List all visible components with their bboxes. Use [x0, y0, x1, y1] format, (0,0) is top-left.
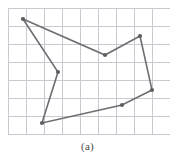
polygon-vertex-v3 [138, 34, 142, 38]
figure-container: (a) [0, 0, 175, 159]
polygon-grid-svg [0, 0, 175, 136]
polygon-vertex-v7 [56, 70, 60, 74]
polygon-vertex-v5 [120, 103, 124, 107]
polygon-vertex-v6 [40, 121, 44, 125]
polygon-shape [23, 19, 152, 123]
figure-caption: (a) [0, 136, 175, 159]
polygon-vertex-v4 [150, 88, 154, 92]
grid-lines [8, 8, 170, 135]
plot-area [0, 0, 175, 136]
polygon-vertex-v2 [103, 53, 107, 57]
polygon-vertex-v1 [21, 17, 25, 21]
